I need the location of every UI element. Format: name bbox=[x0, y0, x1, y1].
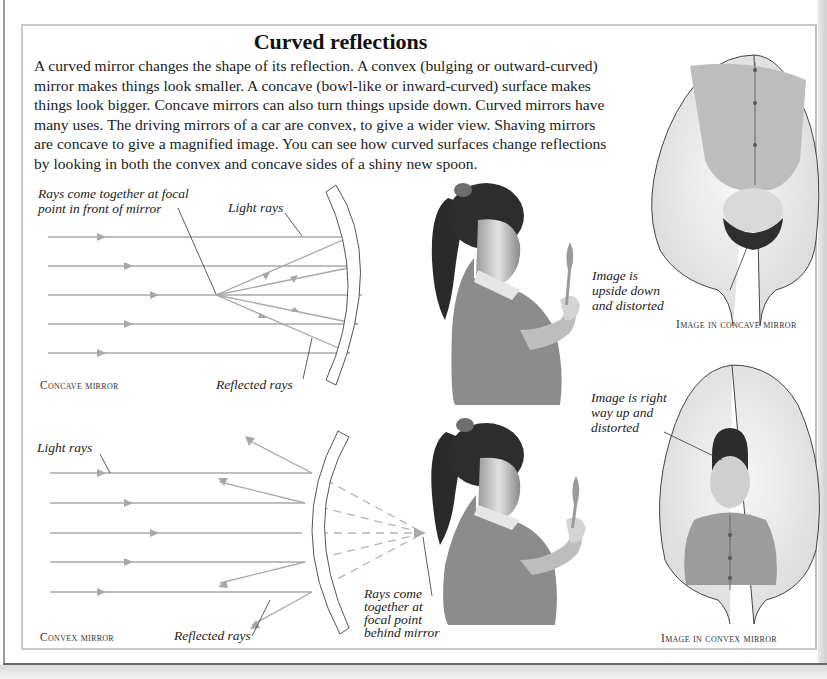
concave-spoon-label: Image is upside down and distorted bbox=[592, 268, 664, 313]
intro-line: A curved mirror changes the shape of its… bbox=[34, 56, 624, 76]
girl-illustration-bottom bbox=[431, 418, 586, 625]
convex-mirror-caption: Convex mirror bbox=[40, 631, 114, 643]
concave-light-rays-label: Light rays bbox=[228, 200, 283, 215]
convex-light-rays-label: Light rays bbox=[37, 440, 92, 455]
intro-line: things look bigger. Concave mirrors can … bbox=[34, 95, 624, 115]
convex-spoon-caption: Image in convex mirror bbox=[661, 632, 777, 644]
concave-reflected-rays-label: Reflected rays bbox=[216, 377, 293, 392]
concave-spoon-illustration bbox=[652, 55, 819, 326]
intro-line: many uses. The driving mirrors of a car … bbox=[34, 115, 624, 135]
intro-line: are concave to give a magnified image. Y… bbox=[34, 134, 624, 154]
page-bottom-shadow bbox=[0, 665, 827, 679]
girl-illustration-top bbox=[432, 183, 580, 405]
page-title: Curved reflections bbox=[0, 29, 681, 55]
concave-focal-label: Rays come together at focal point in fro… bbox=[38, 186, 189, 216]
convex-spoon-illustration bbox=[660, 365, 820, 624]
intro-line: by looking in both the convex and concav… bbox=[34, 154, 624, 174]
convex-reflected-rays-label: Reflected rays bbox=[174, 628, 251, 643]
convex-spoon-label: Image is right way up and distorted bbox=[591, 390, 667, 435]
intro-line: mirror makes things look smaller. A conc… bbox=[34, 76, 624, 96]
convex-focal-label: Rays come together at focal point behind… bbox=[364, 587, 440, 639]
intro-paragraph: A curved mirror changes the shape of its… bbox=[34, 56, 624, 174]
concave-spoon-caption: Image in concave mirror bbox=[676, 318, 797, 330]
concave-mirror-caption: Concave mirror bbox=[40, 379, 119, 391]
